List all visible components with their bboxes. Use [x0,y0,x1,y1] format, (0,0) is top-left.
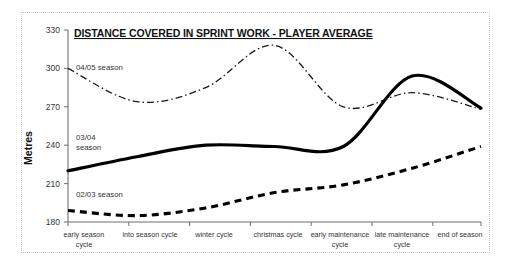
y-axis-title: Metres [22,131,34,165]
chart-plot-area: 330 300 270 240 210 180 DISTANCE COVERED… [0,0,513,269]
series-line-04-05 [68,45,481,109]
series-label-04-05: 04/05 season [76,63,123,72]
x-tick-label: early season [64,230,105,239]
x-tick-label-line2: cycle [394,240,410,249]
x-tick-label: late maintenance [375,230,430,239]
y-tick-label: 270 [46,102,60,112]
x-tick-labels: early season cycle into season cycle win… [64,230,483,249]
x-tick-label-line2: cycle [76,240,92,249]
x-tick-label: winter cycle [194,230,233,239]
x-tick-label: into season cycle [122,230,177,239]
x-tick-label: early maintenance [311,230,370,239]
y-tick-marks [64,30,68,222]
series-label-03-04-line2: season [76,143,101,152]
series-line-03-04 [68,75,481,171]
x-tick-marks [68,222,481,226]
y-tick-label: 300 [46,63,60,73]
x-tick-label: end of season [437,230,482,239]
series-label-02-03: 02/03 season [76,190,123,199]
chart-title: DISTANCE COVERED IN SPRINT WORK - PLAYER… [74,27,373,39]
y-tick-label: 210 [46,179,60,189]
series-label-03-04-line1: 03/04 [76,133,96,142]
x-tick-label: christmas cycle [253,230,302,239]
y-tick-label: 240 [46,140,60,150]
chart-container: 330 300 270 240 210 180 DISTANCE COVERED… [0,0,513,269]
y-tick-labels: 330 300 270 240 210 180 [46,25,60,227]
y-tick-label: 180 [46,217,60,227]
y-tick-label: 330 [46,25,60,35]
x-tick-label-line2: cycle [332,240,348,249]
